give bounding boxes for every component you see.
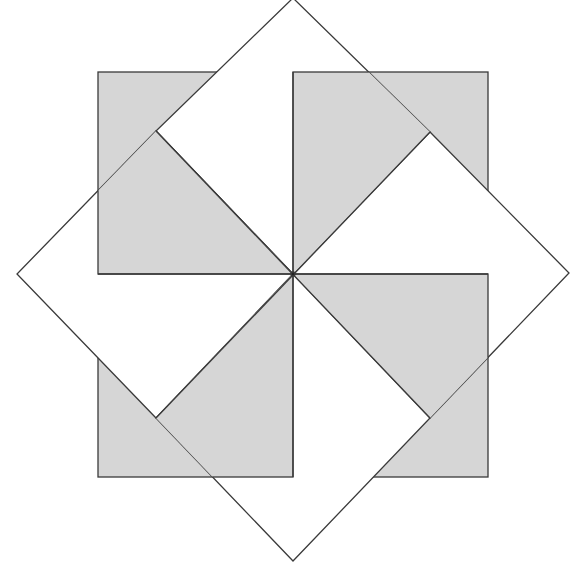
center-point (291, 272, 295, 276)
pinwheel-diagram (0, 0, 584, 583)
